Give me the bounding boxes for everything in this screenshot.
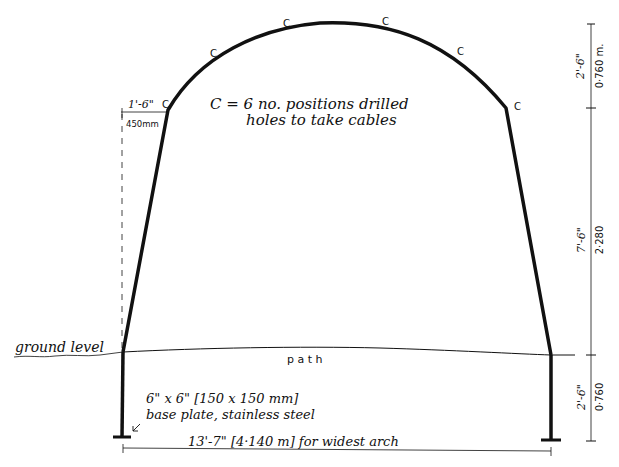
shoulder-dim-metric: 450mm <box>126 119 159 129</box>
bottom-dim-metric: 0·760 <box>594 383 605 412</box>
ground-line <box>123 347 575 355</box>
mid-dim-metric: 2·280 <box>594 226 605 255</box>
base-plate-arrow <box>133 424 140 431</box>
top-dim-metric: 0·760 m. <box>594 44 605 89</box>
base-plate-size: 6" x 6" [150 x 150 mm] <box>146 391 299 406</box>
cable-hole-label: C <box>210 48 217 59</box>
width-dim-label: 13'-7" [4·140 m] for widest arch <box>188 434 399 449</box>
path-label: p a t h <box>287 353 323 366</box>
bottom-dim-imperial: 2'-6" <box>575 384 588 411</box>
arch-frame <box>123 23 551 355</box>
legend-line-2: holes to take cables <box>246 111 397 129</box>
cable-hole-label: C <box>514 101 521 112</box>
mid-dim-imperial: 7'-6" <box>575 227 588 253</box>
ground-level-label: ground level <box>15 339 104 355</box>
cable-hole-label: C <box>162 99 169 110</box>
drawing-svg: C C C C C C C = 6 no. positions drilled … <box>0 0 619 467</box>
top-dim-imperial: 2'-6" <box>574 53 587 80</box>
cable-hole-label: C <box>283 18 290 29</box>
shoulder-dim-imperial: 1'-6" <box>128 98 154 111</box>
base-plate-material: base plate, stainless steel <box>146 407 315 422</box>
arch-elevation-drawing: C C C C C C C = 6 no. positions drilled … <box>0 0 619 467</box>
cable-hole-label: C <box>457 46 464 57</box>
left-post <box>122 352 123 437</box>
cable-hole-label: C <box>382 16 389 27</box>
